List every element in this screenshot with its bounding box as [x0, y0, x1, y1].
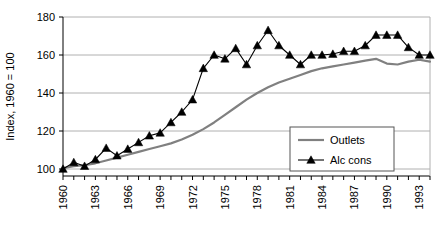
y-tick-label: 120	[37, 125, 55, 137]
y-tick-label: 140	[37, 87, 55, 99]
x-tick-label: 1960	[57, 185, 69, 209]
line-chart: 100120140160180 196019631966196919721975…	[0, 0, 441, 234]
x-tick-label: 1990	[381, 185, 393, 209]
chart-legend: OutletsAlc cons	[290, 127, 394, 171]
x-tick-label: 1978	[251, 185, 263, 209]
data-point-marker	[113, 152, 121, 160]
y-tick-label: 180	[37, 11, 55, 23]
x-tick-label: 1987	[348, 185, 360, 209]
y-axis-tick-labels: 100120140160180	[37, 11, 55, 175]
x-tick-label: 1975	[219, 185, 231, 209]
data-point-marker	[232, 44, 240, 52]
x-tick-label: 1972	[187, 185, 199, 209]
y-tick-label: 100	[37, 163, 55, 175]
x-tick-label: 1984	[316, 185, 328, 209]
legend-label: Outlets	[330, 134, 365, 146]
y-axis-ticks	[59, 17, 63, 169]
y-axis-label-text: Index, 1960 = 100	[4, 52, 16, 140]
x-axis-ticks	[63, 176, 430, 180]
data-point-marker	[124, 145, 132, 153]
data-point-marker	[242, 60, 250, 68]
data-point-marker	[134, 138, 142, 146]
x-tick-label: 1969	[154, 185, 166, 209]
chart-container: 100120140160180 196019631966196919721975…	[0, 0, 441, 234]
legend-label: Alc cons	[330, 154, 372, 166]
x-tick-label: 1963	[89, 185, 101, 209]
data-point-marker	[264, 26, 272, 34]
data-point-marker	[275, 41, 283, 49]
y-tick-label: 160	[37, 49, 55, 61]
data-point-marker	[102, 144, 110, 152]
data-point-marker	[188, 95, 196, 103]
y-axis-label: Index, 1960 = 100	[4, 52, 16, 140]
data-point-marker	[253, 41, 261, 49]
x-axis-tick-labels: 1960196319661969197219751978198119841987…	[57, 185, 425, 209]
x-tick-label: 1981	[284, 185, 296, 209]
x-tick-label: 1993	[413, 185, 425, 209]
data-point-marker	[70, 158, 78, 166]
x-tick-label: 1966	[122, 185, 134, 209]
